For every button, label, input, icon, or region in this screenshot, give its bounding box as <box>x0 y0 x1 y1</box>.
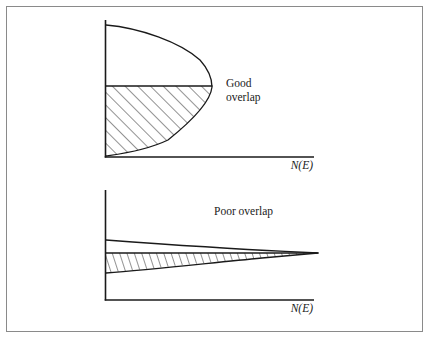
figure-root: Good overlap N(E) Poor overlap N(E) <box>0 0 430 345</box>
panel-good-overlap: Good overlap N(E) <box>100 20 314 172</box>
panel-poor-overlap: Poor overlap N(E) <box>100 190 325 315</box>
hatched-region-good <box>100 80 225 165</box>
annotation-poor-overlap: Poor overlap <box>214 205 273 218</box>
annotation-good-overlap-line1: Good <box>226 77 252 89</box>
hatch-fill-good <box>100 80 225 165</box>
x-axis-label-good: N(E) <box>290 159 314 172</box>
dos-curve-poor-upper <box>106 240 318 253</box>
figure-canvas: Good overlap N(E) Poor overlap N(E) <box>0 0 430 345</box>
x-axis-label-poor: N(E) <box>290 302 314 315</box>
annotation-good-overlap-line2: overlap <box>226 91 261 104</box>
